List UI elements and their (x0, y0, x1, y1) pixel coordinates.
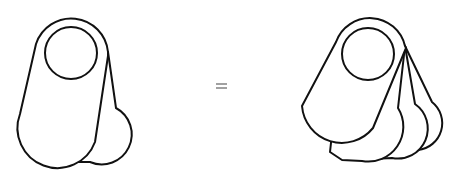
diagram-canvas (0, 0, 455, 175)
left-tag-hole (45, 27, 97, 79)
right-tag-hole (342, 28, 394, 80)
equals-sign (216, 84, 227, 88)
right-tag-stack (302, 18, 442, 162)
left-tag-stack (17, 19, 131, 169)
